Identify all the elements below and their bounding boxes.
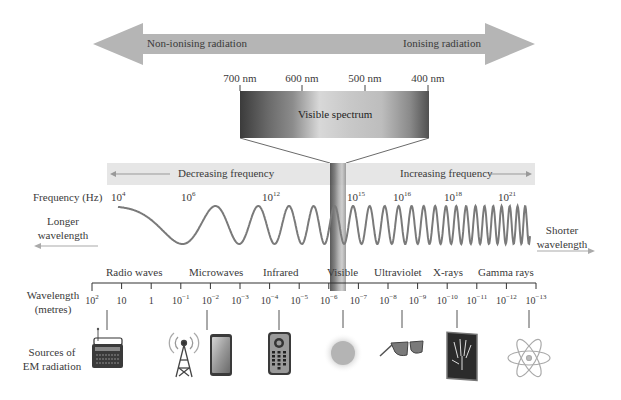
atom-icon xyxy=(508,336,550,379)
radio-tower-icon xyxy=(169,333,198,377)
mobile-phone-icon xyxy=(210,334,232,376)
radio-icon xyxy=(92,328,123,368)
x-ray-hand-icon xyxy=(447,332,477,380)
sunglasses-icon xyxy=(380,341,423,356)
sun-icon xyxy=(323,333,363,373)
sources-icons xyxy=(0,0,621,400)
remote-control-icon xyxy=(268,332,291,375)
